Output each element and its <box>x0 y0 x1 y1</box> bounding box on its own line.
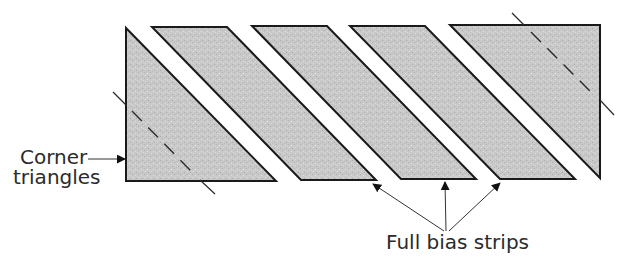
bias-strip-arrow-2 <box>445 182 446 231</box>
full-bias-strips-label: Full bias strips <box>386 232 529 253</box>
bias-strip-arrow-3 <box>449 183 500 231</box>
corner-triangles-label-line2: triangles <box>13 167 101 188</box>
bias-strip-diagram <box>0 0 620 264</box>
bias-strip-arrow-1 <box>373 184 444 231</box>
